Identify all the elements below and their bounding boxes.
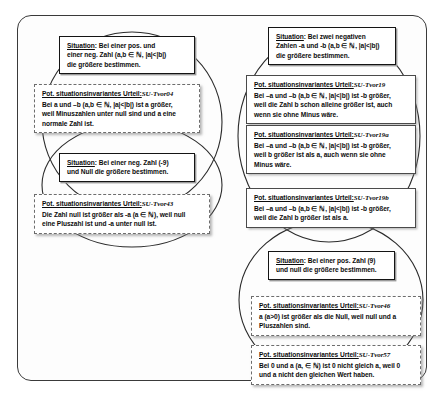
situation-box-right-bottom: Situation: Bei einer pos. Zahl (9) und n…	[268, 251, 395, 280]
judgement-box-su-tvor19b: Pot. situationsinvariantes Urteil:SU-Tvo…	[246, 188, 416, 228]
judgement-line-0: Bei 0 und a (a, ∈ ℕ) ist 0 nicht gleich …	[259, 361, 414, 370]
situation-line-1: einer neg. Zahl (a,b ∈ ℕ, |a|<|b|)	[67, 50, 188, 59]
judgement-line-2: Minus wäre.	[254, 160, 409, 169]
judgement-code: SU-Tvor57	[359, 351, 391, 359]
judgement-line-1: und a nicht den gleichen Wert haben.	[259, 370, 414, 379]
judgement-box-su-tvor04: Pot. situationsinvariantes Urteil:SU-Tvo…	[34, 84, 200, 133]
judgement-box-su-tvor43: Pot. situationsinvariantes Urteil:SU-Tvo…	[34, 194, 210, 234]
situation-heading: Situation	[67, 159, 95, 166]
situation-box-left-bottom: Situation: Bei einer neg. Zahl (-9) und …	[59, 153, 195, 182]
judgement-line-1: eine Pluszahl ist und -a unter null ist.	[42, 219, 203, 228]
judgement-code: SU-Tvor19a	[354, 131, 389, 139]
judgement-heading: Pot. situationsinvariantes Urteil:	[259, 302, 359, 309]
judgement-line-0: Die Zahl null ist größer als -a (a ∈ ℕ),…	[42, 210, 203, 219]
judgement-line-2: normale Zahl ist.	[42, 119, 193, 128]
judgement-box-su-tvor46: Pot. situationsinvariantes Urteil:SU-Tvo…	[251, 296, 421, 336]
situation-line-0: : Bei einer pos. und	[95, 42, 155, 49]
judgement-line-0: Bei a und –b (a,b ∈ ℕ, |a|<|b|) ist a gr…	[42, 100, 193, 109]
situation-line-0: : Bei einer pos. Zahl (9)	[304, 257, 376, 264]
judgement-line-0: Bei –a und –b (a,b ∈ ℕ, |a|<|b|) ist -b …	[254, 204, 409, 213]
judgement-line-1: Pluszahlen sind.	[259, 321, 414, 330]
judgement-line-0: a (a>0) ist größer als die Null, weil nu…	[259, 312, 414, 321]
judgement-heading: Pot. situationsinvariantes Urteil:	[42, 90, 142, 97]
situation-heading: Situation	[276, 33, 304, 40]
situation-box-right-top: Situation: Bei zwei negativen Zahlen -a …	[268, 27, 396, 65]
situation-line-0: : Bei einer neg. Zahl (-9)	[95, 159, 169, 166]
judgement-code: SU-Tvor19b	[354, 194, 389, 202]
judgement-box-su-tvor19: Pot. situationsinvariantes Urteil:SU-Tvo…	[246, 75, 416, 124]
judgement-heading: Pot. situationsinvariantes Urteil:	[42, 200, 142, 207]
situation-heading: Situation	[67, 42, 95, 49]
judgement-code: SU-Tvor19	[354, 81, 386, 89]
situation-box-left-top: Situation: Bei einer pos. und einer neg.…	[59, 36, 195, 74]
situation-line-0: : Bei zwei negativen	[304, 33, 366, 40]
judgement-line-1: weil die Zahl b größer ist als a.	[254, 213, 409, 222]
diagram-screenshot: Situation: Bei einer pos. und einer neg.…	[0, 0, 443, 415]
situation-line-1: und Null die größere bestimmen.	[67, 167, 188, 176]
judgement-line-1: weil b größer ist als a, auch wenn sie o…	[254, 150, 409, 159]
judgement-line-1: weil die Zahl b schon alleine größer ist…	[254, 100, 409, 109]
judgement-box-su-tvor57: Pot. situationsinvariantes Urteil:SU-Tvo…	[251, 345, 421, 385]
judgement-box-su-tvor19a: Pot. situationsinvariantes Urteil:SU-Tvo…	[246, 125, 416, 174]
judgement-heading: Pot. situationsinvariantes Urteil:	[259, 351, 359, 358]
judgement-heading: Pot. situationsinvariantes Urteil:	[254, 194, 354, 201]
situation-line-1: und null die größere bestimmen.	[276, 265, 388, 274]
judgement-line-0: Bei –a und –b (a,b ∈ ℕ, |a|<|b|) ist -b …	[254, 141, 409, 150]
judgement-code: SU-Tvor04	[142, 90, 174, 98]
situation-heading: Situation	[276, 257, 304, 264]
situation-line-2: die größere bestimmen.	[276, 51, 389, 60]
situation-line-1: Zahlen -a und -b (a,b ∈ ℕ, |a|<|b|)	[276, 41, 389, 50]
judgement-code: SU-Tvor46	[359, 302, 391, 310]
judgement-line-0: Bei –a und –b (a,b ∈ ℕ, |a|<|b|) ist -b …	[254, 91, 409, 100]
judgement-line-1: weil Minuszahlen unter null sind und a e…	[42, 109, 193, 118]
judgement-heading: Pot. situationsinvariantes Urteil:	[254, 81, 354, 88]
judgement-line-2: wenn sie ohne Minus wäre.	[254, 110, 409, 119]
judgement-code: SU-Tvor43	[142, 200, 174, 208]
situation-line-2: die größere bestimmen.	[67, 60, 188, 69]
judgement-heading: Pot. situationsinvariantes Urteil:	[254, 131, 354, 138]
